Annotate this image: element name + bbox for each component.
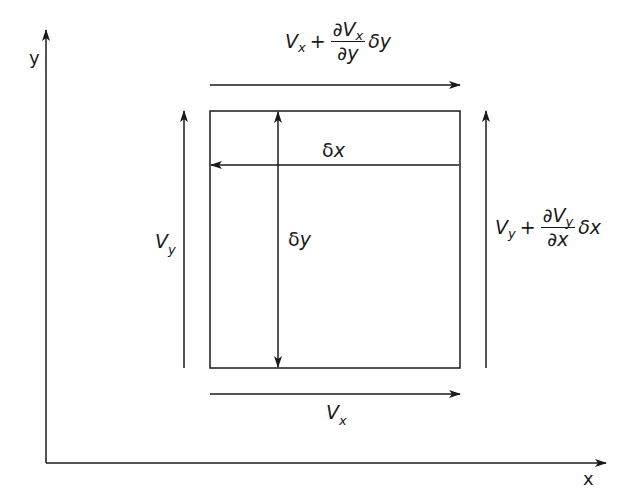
delta-symbol: δ [322, 139, 334, 161]
velocity-subscript: x [298, 41, 306, 54]
velocity-subscript: y [508, 227, 516, 240]
partial-symbol: ∂ [333, 18, 343, 40]
delta-x-label: δx [322, 141, 345, 160]
velocity-symbol: V [155, 230, 168, 252]
delta-symbol: δ [288, 228, 300, 250]
velocity-subscript: x [355, 28, 363, 43]
left-flow-label: Vy [155, 232, 176, 251]
delta-y-var: y [300, 228, 311, 250]
right-flow-label: Vy + ∂Vy ∂x δx [495, 206, 601, 249]
velocity-subscript: y [168, 242, 176, 257]
fraction-denominator: ∂y [337, 42, 358, 63]
fraction-numerator: ∂Vx [331, 20, 366, 42]
fraction-numerator: ∂Vy [541, 206, 576, 228]
delta-term: δy [368, 32, 391, 51]
velocity-symbol: V [342, 18, 355, 40]
delta-term: δx [578, 218, 601, 237]
y-axis-label: y [29, 49, 40, 67]
velocity-subscript: x [339, 413, 347, 428]
velocity-symbol: V [285, 32, 298, 51]
delta-x-var: x [334, 139, 345, 161]
x-axis-label: x [583, 470, 594, 488]
bottom-flow-label: Vx [326, 403, 347, 422]
partial-derivative-fraction: ∂Vx ∂y [331, 20, 366, 63]
partial-symbol: ∂ [543, 204, 553, 226]
delta-y-label: δy [288, 230, 311, 249]
velocity-symbol: V [552, 204, 565, 226]
partial-derivative-fraction: ∂Vy ∂x [541, 206, 576, 249]
fraction-denominator: ∂x [547, 228, 568, 249]
diagram-canvas [0, 0, 633, 501]
top-flow-label: Vx + ∂Vx ∂y δy [285, 20, 391, 63]
plus-sign: + [520, 218, 536, 237]
velocity-subscript: y [565, 214, 573, 229]
velocity-symbol: V [495, 218, 508, 237]
velocity-symbol: V [326, 401, 339, 423]
plus-sign: + [310, 32, 326, 51]
